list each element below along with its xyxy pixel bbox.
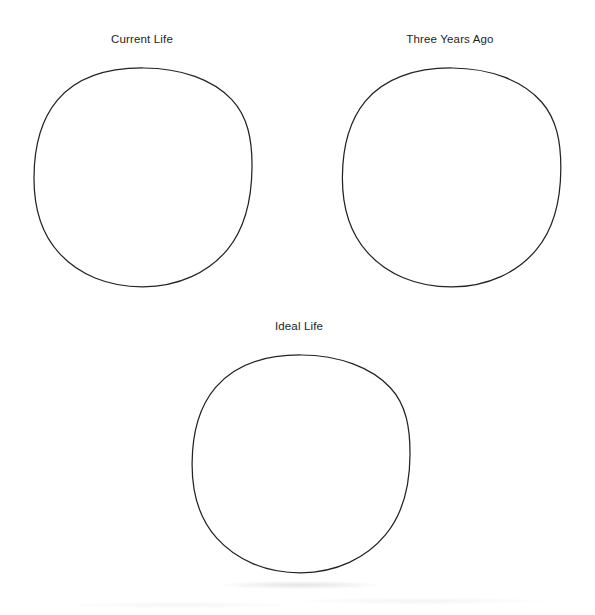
circle-group-ideal-life: Ideal Life	[0, 0, 595, 615]
circle-outline-ideal-life	[191, 354, 411, 574]
worksheet-canvas: Current Life Three Years Ago Ideal Life	[0, 0, 595, 615]
circle-label-ideal-life: Ideal Life	[275, 320, 323, 333]
